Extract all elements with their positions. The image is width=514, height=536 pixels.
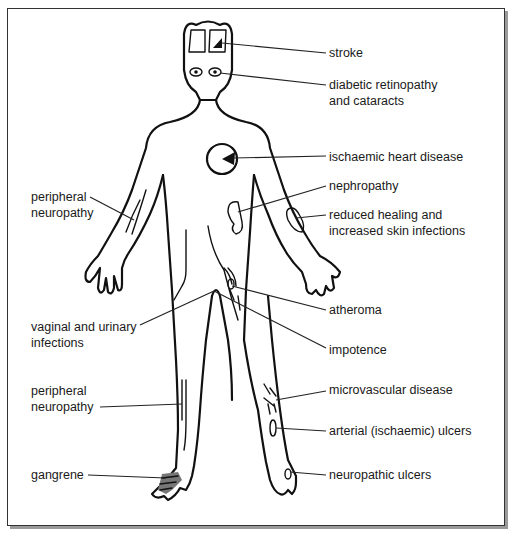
label-line: ischaemic heart disease (329, 149, 463, 165)
heart-icon (207, 144, 237, 174)
leader-retinopathy (220, 73, 326, 85)
label-line: microvascular disease (329, 382, 453, 398)
label-peripheral-neuropathy-leg: peripheral neuropathy (31, 383, 94, 415)
label-gangrene: gangrene (31, 467, 84, 483)
kidney-icon (228, 202, 242, 234)
microvascular-disease-icon (264, 384, 276, 414)
brain-icon (189, 30, 226, 52)
label-arterial-ulcers: arterial (ischaemic) ulcers (329, 423, 471, 439)
label-nephropathy: nephropathy (329, 178, 399, 194)
label-stroke: stroke (329, 45, 363, 61)
label-impotence: impotence (329, 342, 387, 358)
label-line: atheroma (329, 302, 382, 318)
label-line: increased skin infections (329, 223, 465, 239)
eye-icon (190, 68, 221, 76)
label-heart: ischaemic heart disease (329, 149, 463, 165)
label-neuropathic-ulcers: neuropathic ulcers (329, 467, 431, 483)
label-peripheral-neuropathy-arm: peripheral neuropathy (31, 189, 94, 221)
label-healing: reduced healing and increased skin infec… (329, 207, 465, 239)
label-line: neuropathy (31, 205, 94, 221)
label-line: reduced healing and (329, 207, 465, 223)
label-retinopathy: diabetic retinopathy and cataracts (329, 77, 437, 109)
label-vaginal-urinary: vaginal and urinary infections (31, 319, 137, 351)
label-line: nephropathy (329, 178, 399, 194)
label-line: gangrene (31, 467, 84, 483)
label-line: diabetic retinopathy (329, 77, 437, 93)
label-line: peripheral (31, 383, 94, 399)
label-line: infections (31, 335, 137, 351)
label-line: neuropathic ulcers (329, 467, 431, 483)
human-body-outline-icon (86, 100, 341, 500)
label-line: impotence (329, 342, 387, 358)
arterial-ulcer-icon (270, 420, 276, 436)
leader-gangrene (88, 475, 166, 478)
label-atheroma: atheroma (329, 302, 382, 318)
label-line: and cataracts (329, 93, 437, 109)
atheroma-vessels (224, 268, 240, 310)
label-line: peripheral (31, 189, 94, 205)
neuropathic-ulcer-icon (285, 469, 291, 479)
label-line: arterial (ischaemic) ulcers (329, 423, 471, 439)
label-line: vaginal and urinary (31, 319, 137, 335)
label-line: neuropathy (31, 399, 94, 415)
leader-impotence (214, 291, 326, 348)
leader-stroke (222, 43, 326, 53)
leader-neuropathy-leg (100, 404, 182, 407)
leader-heart (234, 156, 326, 158)
leader-microvascular (276, 391, 326, 400)
label-line: stroke (329, 45, 363, 61)
label-microvascular: microvascular disease (329, 382, 453, 398)
